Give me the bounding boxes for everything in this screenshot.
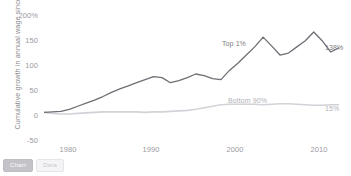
chart-tab-button[interactable]: Chart — [3, 159, 33, 172]
data-tab-button[interactable]: Data — [36, 159, 64, 172]
series-line-bottom-90 — [44, 104, 339, 114]
view-toggle-bar[interactable]: Chart Data — [3, 159, 64, 172]
wage-growth-chart-widget: Wage growth since 1979, top 1% vs bottom… — [0, 0, 351, 176]
annotation-bottom-90-label: Bottom 90% — [228, 97, 267, 104]
annotation-top-1-value: 138% — [325, 44, 343, 51]
plot-svg — [44, 10, 339, 138]
y-tick-200: 200% — [8, 11, 38, 20]
x-tick-2010: 2010 — [299, 145, 339, 154]
x-tick-1980: 1980 — [48, 145, 88, 154]
y-tick-minus-50: -50 — [8, 136, 38, 145]
plot-area — [44, 10, 339, 138]
annotation-bottom-90-value: 15% — [325, 105, 339, 112]
y-tick-100: 100 — [8, 61, 38, 70]
x-tick-2000: 2000 — [215, 145, 255, 154]
annotation-top-1-label: Top 1% — [222, 40, 246, 47]
y-tick-0: 0 — [8, 111, 38, 120]
y-tick-50: 50 — [8, 86, 38, 95]
x-tick-1990: 1990 — [131, 145, 171, 154]
series-line-top-1 — [44, 32, 339, 112]
y-tick-150: 150 — [8, 36, 38, 45]
